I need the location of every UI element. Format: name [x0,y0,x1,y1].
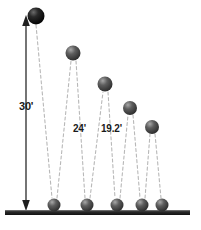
diagram-canvas [0,0,201,230]
apex-ball-1 [28,8,45,25]
trajectory-drop-1 [36,25,52,198]
trajectory-rise-1 [57,61,71,198]
apex-ball-3 [98,77,113,92]
ground-balls [48,199,169,212]
height-label-30: 30' [19,101,33,112]
ground-ball-5 [156,199,169,212]
apex-ball-5 [145,120,159,134]
trajectory-drop-4 [133,115,140,198]
ground-ball-1 [48,199,61,212]
height-measure-arrow [22,15,30,211]
ground-ball-3 [111,199,124,212]
height-arrow-head-bottom [22,200,30,211]
apex-ball-4 [123,101,137,115]
ground-ball-2 [81,199,94,212]
height-label-19-2: 19.2' [101,124,122,134]
bouncing-ball-diagram: 30' 24' 19.2' [0,0,201,230]
apex-balls [28,8,160,135]
trajectory-paths [36,25,161,198]
trajectory-rise-4 [145,134,150,198]
trajectory-rise-2 [90,92,103,198]
trajectory-drop-5 [155,134,161,198]
ground-ball-4 [136,199,149,212]
apex-ball-2 [66,46,81,61]
trajectory-drop-3 [108,92,115,198]
height-label-24: 24' [73,124,86,134]
